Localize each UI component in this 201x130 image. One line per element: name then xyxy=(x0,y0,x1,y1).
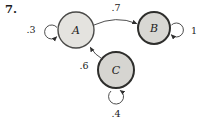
arrow-c-to-a xyxy=(91,48,104,60)
prob-label-c-to-a: .6 xyxy=(79,60,88,71)
prob-label-c-self: .4 xyxy=(111,108,120,119)
figure-container: 7. A B C .3 .7 1 .6 .4 xyxy=(0,0,201,130)
prob-label-a-to-b: .7 xyxy=(111,2,120,13)
state-diagram: A B C .3 .7 1 .6 .4 xyxy=(0,0,201,130)
self-loop-c-arrow xyxy=(109,91,124,105)
self-loop-b-arrow xyxy=(172,23,184,37)
state-b-label: B xyxy=(149,22,158,35)
prob-label-a-self: .3 xyxy=(26,24,35,35)
prob-label-b-self: 1 xyxy=(191,25,197,36)
arrow-a-to-b xyxy=(94,20,137,25)
state-a-label: A xyxy=(71,24,80,37)
state-c-label: C xyxy=(112,64,121,77)
self-loop-a-arrow xyxy=(45,25,57,39)
